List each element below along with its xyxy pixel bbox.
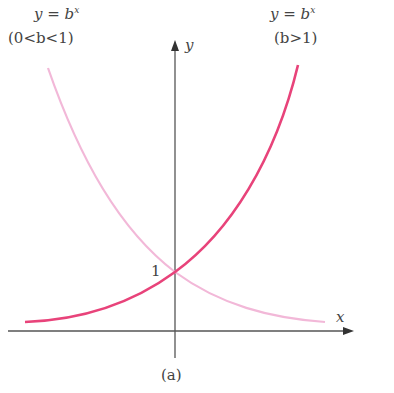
decay-curve xyxy=(48,68,325,322)
growth-curve xyxy=(25,65,298,322)
figure-caption: (a) xyxy=(161,366,182,384)
left-curve-condition: (0<b<1) xyxy=(8,29,74,47)
right-curve-equation: y = bx xyxy=(270,5,315,23)
intercept-label: 1 xyxy=(151,262,161,280)
x-axis-label: x xyxy=(336,308,344,326)
exponential-graph xyxy=(0,0,394,393)
y-axis-label: y xyxy=(185,36,193,54)
left-curve-equation: y = bx xyxy=(34,5,79,23)
y-axis-arrow-icon xyxy=(171,40,179,51)
right-curve-condition: (b>1) xyxy=(274,29,317,47)
x-axis-arrow-icon xyxy=(343,327,354,335)
